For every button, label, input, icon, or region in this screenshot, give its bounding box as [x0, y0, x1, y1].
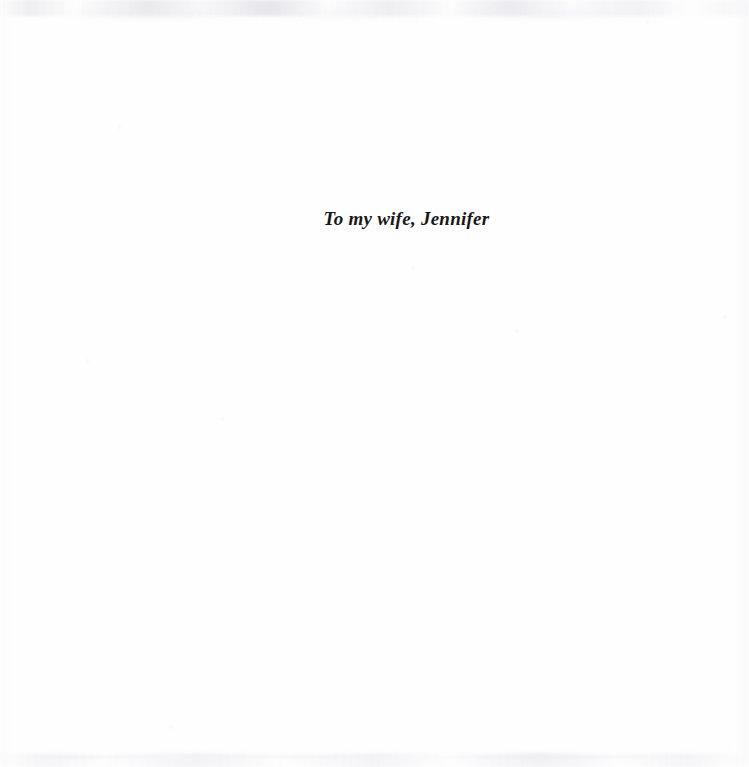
scan-artifact-top-edge: [0, 0, 749, 16]
paper-speck: [412, 267, 414, 269]
scanned-page: To my wife, Jennifer: [0, 0, 749, 767]
scan-artifact-bottom-edge: [0, 753, 749, 767]
paper-speck: [300, 14, 302, 16]
scan-artifact-left-edge: [0, 0, 14, 767]
paper-speck: [516, 330, 518, 332]
dedication-text: To my wife, Jennifer: [324, 206, 490, 232]
dedication-block: To my wife, Jennifer: [0, 206, 749, 232]
paper-speck: [118, 126, 120, 128]
paper-speck: [724, 316, 726, 318]
paper-speck: [86, 360, 88, 362]
scan-artifact-bottom-line: [20, 756, 730, 758]
paper-speck: [222, 418, 224, 420]
scan-artifact-top-band: [60, 10, 680, 20]
scan-artifact-right-edge: [727, 0, 749, 767]
paper-speck: [646, 21, 648, 23]
paper-speck: [170, 726, 172, 728]
